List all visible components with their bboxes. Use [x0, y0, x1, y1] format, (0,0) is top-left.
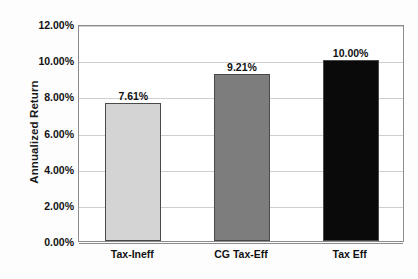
bars-layer: 7.61%9.21%10.00%	[79, 26, 403, 241]
x-axis-category-labels: Tax-IneffCG Tax-EffTax Eff	[78, 248, 404, 266]
bar-value-label: 7.61%	[93, 90, 173, 102]
y-axis-tick-label: 12.00%	[22, 19, 74, 31]
y-axis-tick-label: 4.00%	[22, 164, 74, 176]
y-axis-tick-label: 0.00%	[22, 236, 74, 248]
bar-value-label: 9.21%	[202, 61, 282, 73]
y-axis-tick-label: 6.00%	[22, 128, 74, 140]
bar	[323, 60, 379, 241]
plot-area: 7.61%9.21%10.00%	[78, 25, 404, 242]
bar-value-label: 10.00%	[311, 47, 391, 59]
gridline	[79, 243, 403, 244]
x-axis-category-label: CG Tax-Eff	[181, 248, 301, 260]
y-axis-tick-label: 2.00%	[22, 200, 74, 212]
y-axis-tick-label: 8.00%	[22, 91, 74, 103]
y-axis-tick-label: 10.00%	[22, 55, 74, 67]
x-axis-category-label: Tax-Ineff	[72, 248, 192, 260]
x-axis-category-label: Tax Eff	[290, 248, 410, 260]
bar-chart: Annualized Return 0.00%2.00%4.00%6.00%8.…	[0, 0, 418, 279]
bar	[214, 74, 270, 241]
bar	[105, 103, 161, 241]
y-axis-tick-labels: 0.00%2.00%4.00%6.00%8.00%10.00%12.00%	[22, 25, 74, 242]
